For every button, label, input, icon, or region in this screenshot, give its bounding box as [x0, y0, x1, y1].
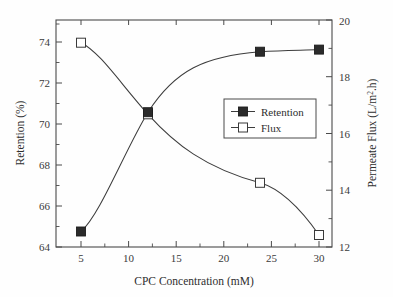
x-tick-label: 5	[78, 252, 84, 264]
flux-series-line	[81, 43, 319, 235]
flux-data-points	[77, 38, 324, 239]
x-tick-label: 20	[218, 252, 230, 264]
x-tick-label: 15	[171, 252, 183, 264]
x-tick-label: 25	[266, 252, 278, 264]
y2-axis-label-main: Permeate Flux (L/m	[366, 95, 379, 188]
y-tick-label: 72	[39, 77, 50, 89]
legend-label-flux: Flux	[261, 122, 282, 134]
x-tick-label: 10	[123, 252, 135, 264]
y-tick-label: 74	[39, 36, 51, 48]
y2-tick-label: 16	[339, 128, 351, 140]
y-axis-label: Retention (%)	[14, 100, 27, 165]
chart-figure: 5 10 15 20 25 30 CPC Concentration (mM) …	[0, 0, 393, 297]
y2-tick-label: 18	[339, 71, 351, 83]
x-tick-label: 30	[314, 252, 326, 264]
chart-canvas: 5 10 15 20 25 30 CPC Concentration (mM) …	[0, 0, 393, 297]
filled-square-icon	[239, 107, 248, 116]
y2-axis-label: Permeate Flux (L/m2.h)	[366, 78, 380, 187]
y-tick-label: 70	[39, 118, 51, 130]
open-square-icon	[239, 123, 248, 132]
y2-tick-label: 20	[339, 15, 351, 27]
x-axis-label: CPC Concentration (mM)	[134, 275, 254, 288]
y-tick-label: 66	[39, 200, 51, 212]
y-tick-label: 68	[39, 159, 51, 171]
x-axis-top-ticks	[81, 20, 319, 25]
legend-label-retention: Retention	[261, 106, 304, 118]
y2-tick-label: 12	[339, 241, 350, 253]
y-axis-right-major-ticks	[326, 20, 332, 247]
legend-entry-retention[interactable]: Retention	[231, 106, 304, 118]
y-tick-label: 64	[39, 241, 51, 253]
chart-legend[interactable]: Retention Flux	[224, 99, 316, 138]
y2-axis-label-tail: .h)	[366, 78, 379, 91]
y2-tick-label: 14	[339, 184, 351, 196]
